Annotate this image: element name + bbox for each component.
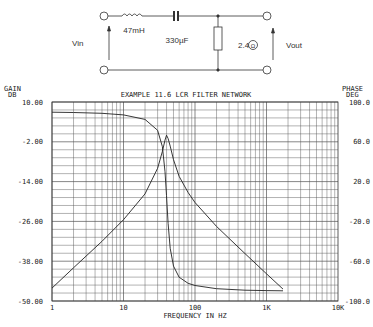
left-axis-ticks: 10.00-2.00-14.00-26.00-38.00-50.00 (18, 99, 43, 306)
input-terminal-top (100, 12, 108, 20)
right-axis-tick-label: -20.0 (349, 218, 370, 226)
left-axis-tick-label: -50.00 (18, 298, 43, 306)
right-axis-tick-label: -60.0 (349, 258, 370, 266)
chart-grid (52, 102, 338, 301)
right-axis-tick-label: 100.0 (349, 99, 370, 107)
vin-label: Vin (72, 39, 83, 48)
capacitor-label: 330µF (166, 36, 189, 45)
x-axis-tick-label: 100 (189, 304, 202, 312)
left-axis-tick-label: -2.00 (22, 138, 43, 146)
x-axis-tick-label: 10K (332, 304, 345, 312)
right-axis-ticks: 100.060.020.0-20.0-60.0-100.0 (345, 99, 370, 306)
vout-label: Vout (286, 41, 303, 50)
left-axis-tick-label: -26.00 (18, 218, 43, 226)
x-axis-tick-label: 10 (119, 304, 127, 312)
ohm-icon: Ω (251, 43, 256, 49)
x-axis-tick-label: 1K (262, 304, 271, 312)
right-axis-tick-label: 60.0 (353, 138, 370, 146)
figure: 47mH 330µF 2.4 Ω Vin Vout EXAMPLE 11.6 L… (0, 0, 373, 327)
resistor-symbol (214, 27, 222, 50)
left-axis-title-line2: DB (8, 91, 16, 99)
input-terminal-bottom (100, 66, 108, 74)
left-axis-tick-label: -14.00 (18, 178, 43, 186)
right-axis-tick-label: 20.0 (353, 178, 370, 186)
x-axis-tick-label: 1 (50, 304, 54, 312)
resistor-label: 2.4 (238, 41, 250, 50)
inductor-label: 47mH (123, 26, 145, 35)
chart-title: EXAMPLE 11.6 LCR FILTER NETWORK (121, 91, 252, 99)
output-terminal-bottom (263, 66, 271, 74)
phase-curve (52, 112, 283, 291)
x-axis-title: FREQUENCY IN HZ (163, 312, 226, 320)
inductor-symbol (122, 14, 142, 16)
left-axis-tick-label: -38.00 (18, 258, 43, 266)
x-axis-ticks: 1101001K10K (50, 304, 345, 312)
left-axis-tick-label: 10.00 (22, 99, 43, 107)
output-terminal-top (263, 12, 271, 20)
right-axis-tick-label: -100.0 (345, 298, 370, 306)
